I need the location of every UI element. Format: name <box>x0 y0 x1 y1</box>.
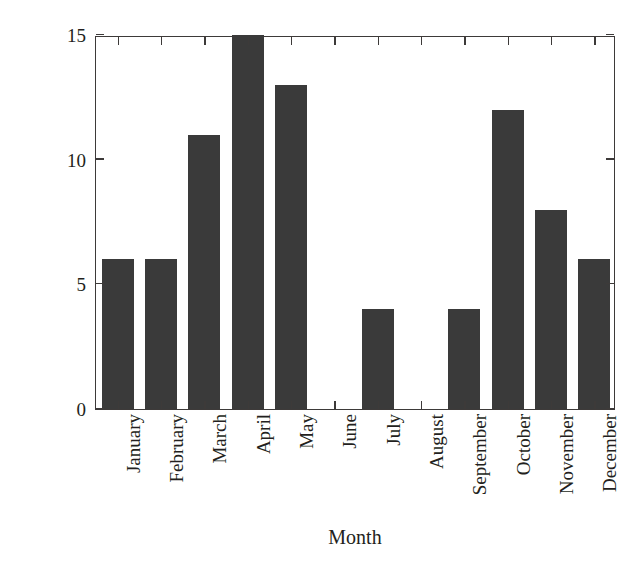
y-tick-15 <box>96 34 104 35</box>
bar-chart-figure: Number of events 051015 JanuaryFebruaryM… <box>0 0 644 572</box>
x-tick-label-march: March <box>210 414 229 464</box>
x-tick-bottom-june <box>334 401 335 409</box>
y-tick-right-0 <box>606 408 614 409</box>
bar-december <box>578 259 610 409</box>
x-tick-top-august <box>421 37 422 45</box>
bar-march <box>188 135 220 409</box>
x-tick-bottom-january <box>118 401 119 409</box>
y-tick-0 <box>96 408 104 409</box>
x-tick-label-july: July <box>384 414 403 446</box>
y-tick-label-15: 15 <box>67 26 86 45</box>
bar-february <box>145 259 177 409</box>
y-tick-label-5: 5 <box>77 275 87 294</box>
y-tick-right-10 <box>606 158 614 159</box>
x-tick-bottom-may <box>291 401 292 409</box>
x-tick-bottom-september <box>464 401 465 409</box>
x-tick-top-may <box>291 37 292 45</box>
x-tick-top-march <box>204 37 205 45</box>
bar-november <box>535 210 567 409</box>
x-tick-top-october <box>508 37 509 45</box>
bar-july <box>362 309 394 409</box>
y-tick-label-10: 10 <box>67 151 86 170</box>
bar-april <box>232 35 264 409</box>
x-tick-label-february: February <box>167 414 186 483</box>
x-tick-label-october: October <box>514 414 533 475</box>
x-tick-top-september <box>464 37 465 45</box>
x-tick-bottom-august <box>421 401 422 409</box>
x-tick-label-january: January <box>124 414 143 473</box>
plot-area <box>95 36 615 410</box>
x-tick-top-november <box>551 37 552 45</box>
x-tick-top-july <box>378 37 379 45</box>
y-tick-right-5 <box>606 283 614 284</box>
x-tick-label-september: September <box>470 414 489 495</box>
x-tick-bottom-october <box>508 401 509 409</box>
x-tick-top-april <box>248 37 249 45</box>
x-tick-label-november: November <box>557 414 576 494</box>
y-tick-label-0: 0 <box>77 400 87 419</box>
y-tick-10 <box>96 158 104 159</box>
x-tick-bottom-november <box>551 401 552 409</box>
x-tick-label-june: June <box>340 414 359 449</box>
x-tick-top-february <box>161 37 162 45</box>
x-tick-bottom-december <box>594 401 595 409</box>
x-axis-title: Month <box>95 527 615 547</box>
x-tick-bottom-february <box>161 401 162 409</box>
x-tick-bottom-april <box>248 401 249 409</box>
x-tick-label-december: December <box>600 414 619 492</box>
x-tick-label-august: August <box>427 414 446 469</box>
x-tick-bottom-march <box>204 401 205 409</box>
y-tick-right-15 <box>606 34 614 35</box>
x-tick-top-december <box>594 37 595 45</box>
bar-january <box>102 259 134 409</box>
x-tick-bottom-july <box>378 401 379 409</box>
y-axis-tick-labels: 051015 <box>44 36 86 410</box>
bar-may <box>275 85 307 409</box>
bar-october <box>492 110 524 409</box>
bar-september <box>448 309 480 409</box>
x-tick-label-april: April <box>254 414 273 454</box>
x-tick-top-june <box>334 37 335 45</box>
x-tick-label-may: May <box>297 414 316 449</box>
bars-layer <box>96 37 614 409</box>
x-axis-tick-labels: JanuaryFebruaryMarchAprilMayJuneJulyAugu… <box>95 414 615 524</box>
x-tick-top-january <box>118 37 119 45</box>
y-tick-5 <box>96 283 104 284</box>
